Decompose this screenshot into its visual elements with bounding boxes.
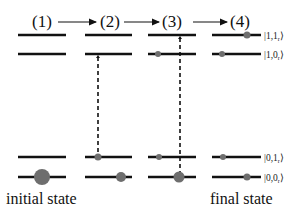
initial-state-caption: initial state [6, 190, 77, 207]
ket-label-1-1: |1,1r⟩ [264, 31, 284, 42]
population-dot [116, 172, 126, 182]
step-label-2: (2) [100, 12, 120, 31]
ket-label-0-0: |0,0r⟩ [264, 173, 284, 184]
step-label-4: (4) [230, 12, 250, 31]
transitions [98, 38, 180, 175]
population-dot [244, 32, 251, 39]
energy-level-diagram: (1) (2) (3) (4) [0, 0, 300, 218]
population-dot [34, 169, 50, 185]
population-dot [220, 154, 226, 160]
state-labels: |1,1r⟩ |1,0r⟩ |0,1r⟩ |0,0r⟩ [264, 31, 284, 184]
final-state-caption: final state [210, 190, 273, 207]
population-dot [219, 51, 225, 57]
ket-label-1-0: |1,0r⟩ [264, 50, 284, 61]
population-dot [155, 51, 161, 57]
population-dot [174, 172, 185, 183]
transition-tick-icon [96, 55, 100, 58]
ket-label-0-1: |0,1r⟩ [264, 153, 284, 164]
population-dot [156, 154, 162, 160]
population-dot [95, 154, 102, 161]
population-dot [244, 174, 251, 181]
step-label-3: (3) [162, 12, 182, 31]
transition-tick-icon [178, 36, 182, 39]
step-label-1: (1) [32, 12, 52, 31]
